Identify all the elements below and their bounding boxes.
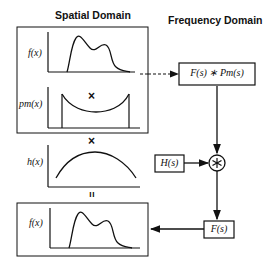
result-fx-plot — [50, 208, 140, 248]
filter-box-label: H(s) — [155, 157, 184, 168]
result-spectrum-label: F(s) — [204, 223, 234, 234]
pmx-label: pm(x) — [19, 98, 42, 109]
convolution-node-icon — [209, 155, 225, 171]
fx-label: f(x) — [28, 47, 42, 58]
multiply-operator-1: × — [88, 89, 95, 103]
spatial-product-box — [17, 27, 148, 133]
multiply-operator-2: × — [88, 134, 95, 148]
convolution-box-label: F(s) ∗ Pm(s) — [179, 67, 255, 78]
hx-label: h(x) — [27, 156, 43, 167]
fx-plot — [48, 32, 135, 72]
hx-plot — [48, 145, 140, 187]
equals-operator: = — [86, 192, 97, 198]
result-fx-label: f(x) — [29, 217, 43, 228]
